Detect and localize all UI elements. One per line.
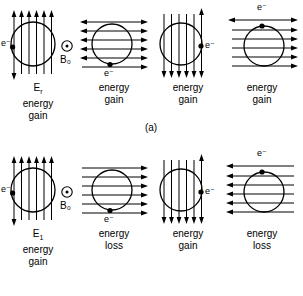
b0-field-dot <box>66 191 69 194</box>
panel-a-1: e⁻ B₀ Er energy gain <box>0 2 76 140</box>
panel-a-3-diagram: e⁻ <box>150 2 226 86</box>
panel-a-3-caption: energy gain <box>150 82 226 105</box>
field-arrowheads-right <box>141 20 148 70</box>
electron-label: e⁻ <box>205 40 215 50</box>
orbit-circle <box>11 22 55 66</box>
electron-label: e⁻ <box>205 186 215 196</box>
electron-dot <box>198 43 203 48</box>
energy-word: energy <box>150 82 226 94</box>
energy-word: energy <box>76 228 152 240</box>
energy-symbol-label: E1 <box>0 228 76 244</box>
panel-a-2-caption: energy gain <box>76 82 152 105</box>
electron-dot <box>107 62 112 67</box>
orbit-circle <box>160 169 202 211</box>
panel-a-2: e⁻ energy gain <box>76 2 152 140</box>
energy-word: energy <box>0 244 76 256</box>
panel-a-4: e⁻ energy gain <box>224 2 300 140</box>
energy-result: gain <box>0 110 76 122</box>
field-arrowhead-down <box>12 219 17 226</box>
field-arrowhead-left <box>228 18 235 23</box>
field-arrowhead-down <box>12 73 17 80</box>
energy-word: energy <box>0 98 76 110</box>
electron-dot <box>259 23 264 28</box>
field-arrowheads-up <box>12 156 54 163</box>
field-arrowhead-up <box>199 8 204 15</box>
energy-result: gain <box>0 256 76 268</box>
row-caption-a: (a) <box>131 122 171 133</box>
energy-symbol-label: Er <box>0 82 76 98</box>
panel-b-4-caption: energy loss <box>224 228 300 251</box>
panel-b-1-caption: E1 energy gain <box>0 228 76 267</box>
electron-label: e⁻ <box>1 184 11 194</box>
b0-label: B₀ <box>60 54 71 65</box>
panel-a-3: e⁻ energy gain <box>150 2 226 140</box>
vertical-up-field-diagram <box>0 148 76 232</box>
field-arrowheads-up <box>12 10 54 17</box>
electron-dot <box>107 208 112 213</box>
orbit-circle <box>160 23 202 65</box>
electron-dot <box>259 169 264 174</box>
field-arrowheads-left-stub <box>80 20 87 61</box>
panel-b-4-diagram: e⁻ <box>224 148 300 232</box>
energy-result: gain <box>150 94 226 106</box>
figure-row-a: e⁻ B₀ Er energy gain <box>0 2 303 142</box>
horizontal-right-field-electron-top-diagram <box>224 2 300 86</box>
field-arrowhead-up <box>199 154 204 161</box>
panel-b-2-diagram: e⁻ <box>76 148 152 232</box>
panel-a-1-diagram: e⁻ B₀ <box>0 2 76 86</box>
field-arrowheads-left <box>226 164 233 215</box>
panel-b-2: e⁻ energy loss <box>76 148 152 286</box>
energy-word: energy <box>76 82 152 94</box>
physics-figure: e⁻ B₀ Er energy gain <box>0 0 303 296</box>
electron-label: e⁻ <box>104 68 114 78</box>
energy-word: energy <box>224 82 300 94</box>
energy-result: gain <box>150 240 226 252</box>
orbit-circle <box>11 168 55 212</box>
energy-result: gain <box>76 94 152 106</box>
electron-dot <box>198 189 203 194</box>
orbit-circle <box>244 172 284 212</box>
panel-b-3-diagram: e⁻ <box>150 148 226 232</box>
field-arrowheads-right <box>141 166 148 216</box>
b0-field-dot <box>66 45 69 48</box>
electron-label: e⁻ <box>1 38 11 48</box>
panel-b-1-diagram: e⁻ B₀ <box>0 148 76 232</box>
energy-word: energy <box>224 228 300 240</box>
energy-result: gain <box>224 94 300 106</box>
energy-result: loss <box>224 240 300 252</box>
field-arrowheads-down <box>162 217 204 224</box>
orbit-circle <box>244 26 284 66</box>
electron-label: e⁻ <box>104 214 114 224</box>
horizontal-left-field-electron-top-diagram <box>224 148 300 232</box>
panel-b-3: e⁻ energy gain <box>150 148 226 286</box>
energy-result: loss <box>76 240 152 252</box>
figure-row-b: e⁻ B₀ E1 energy gain <box>0 148 303 288</box>
panel-b-3-caption: energy gain <box>150 228 226 251</box>
panel-a-2-diagram: e⁻ <box>76 2 152 86</box>
energy-subscript: r <box>40 88 42 95</box>
electron-label: e⁻ <box>257 2 267 12</box>
panel-b-2-caption: energy loss <box>76 228 152 251</box>
electron-label: e⁻ <box>257 148 267 158</box>
b0-label: B₀ <box>60 200 71 211</box>
field-arrowheads-down <box>162 71 204 78</box>
energy-word: energy <box>150 228 226 240</box>
panel-a-4-caption: energy gain <box>224 82 300 105</box>
panel-b-4: e⁻ energy loss <box>224 148 300 286</box>
vertical-up-field-diagram <box>0 2 76 86</box>
panel-a-4-diagram: e⁻ <box>224 2 300 86</box>
panel-b-1: e⁻ B₀ E1 energy gain <box>0 148 76 286</box>
panel-a-1-caption: Er energy gain <box>0 82 76 121</box>
energy-subscript: 1 <box>39 234 43 241</box>
field-arrowheads-right <box>291 18 298 69</box>
